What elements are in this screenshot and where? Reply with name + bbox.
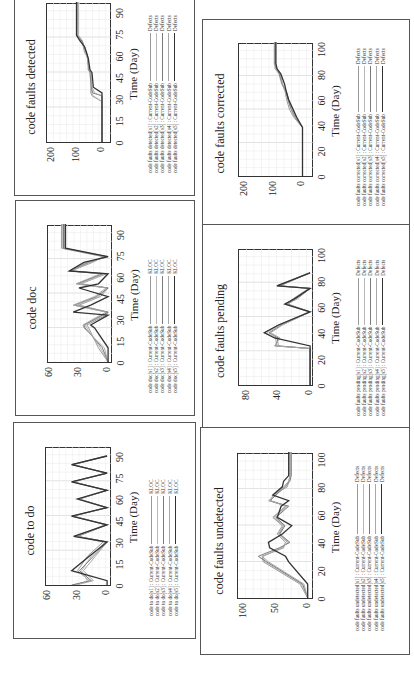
legend-line-swatch — [163, 496, 164, 544]
legend-line-swatch — [174, 33, 175, 81]
legend-series-name: code faults detected[s5] : Current-CodeS… — [172, 83, 178, 173]
y-tick-label: 60 — [43, 367, 54, 391]
x-tick-label: 60 — [114, 490, 125, 510]
y-tick-label: 30 — [71, 590, 82, 614]
legend-unit: Defects — [380, 260, 386, 276]
legend: code doc[s1] : Current-CodeSubKLOCcode d… — [147, 260, 178, 393]
x-tick-label: 100 — [316, 246, 327, 266]
y-tick-label: 0 — [101, 367, 112, 391]
chart-panel: code faults corrected2001000020406080100… — [202, 19, 410, 228]
x-tick-label: 90 — [115, 225, 126, 245]
legend-item: code doc[s5] : Current-CodeSubKLOC — [172, 260, 178, 393]
y-tick-label: 0 — [303, 390, 314, 414]
panel-code-faults-pending: code faults pending80400020406080100Time… — [202, 230, 410, 444]
x-tick-label: 60 — [115, 268, 126, 288]
x-tick-label: 40 — [316, 324, 327, 344]
x-axis-label: Time (Day) — [329, 428, 341, 654]
panel-code-doc: code doc603000153045607590Time (Day)code… — [15, 236, 195, 452]
x-tick-label: 75 — [114, 469, 125, 489]
x-tick-label: 15 — [114, 555, 125, 575]
legend-line-swatch — [381, 484, 382, 534]
legend-unit: Defects — [380, 48, 386, 64]
legend-line-swatch — [156, 276, 157, 324]
legend-line-swatch — [376, 278, 377, 325]
x-tick-label: 0 — [114, 576, 125, 596]
legend-series-name: code faults undetected[s5] : Current-Cod… — [379, 536, 385, 631]
x-axis-label: Time (Day) — [127, 423, 139, 638]
x-tick-label: 45 — [115, 289, 126, 309]
legend-item: code faults pending[s5] : Current-CodeSu… — [380, 260, 386, 416]
line-chart-svg — [47, 2, 112, 142]
x-tick-label: 0 — [316, 376, 327, 396]
line-chart-svg — [46, 446, 112, 585]
y-tick-label: 0 — [301, 603, 312, 627]
y-tick-label: 80 — [240, 390, 251, 414]
line-chart-svg — [239, 248, 314, 385]
y-tick-label: 30 — [72, 367, 83, 391]
chart-title: code faults undetected — [212, 428, 227, 654]
legend-line-swatch — [162, 33, 163, 81]
legend: code faults detected[s1] : Current-CodeS… — [147, 15, 178, 173]
x-tick-label: 90 — [114, 3, 125, 23]
x-tick-label: 75 — [115, 246, 126, 266]
legend-line-swatch — [150, 276, 151, 324]
plot-area — [238, 249, 313, 386]
legend: code faults pending[s1] : Current-CodeSu… — [355, 260, 386, 416]
plot-area — [46, 3, 111, 143]
y-tick-label: 100 — [267, 181, 278, 205]
panel-code-to-do: code to do603000153045607590Time (Day)co… — [13, 456, 196, 673]
legend-line-swatch — [157, 496, 158, 544]
legend-item: code faults corrected[s5] : Current-Code… — [380, 48, 386, 206]
y-tick-label: 200 — [238, 181, 249, 205]
x-tick-label: 60 — [316, 298, 327, 318]
chart-title: code to do — [23, 423, 38, 638]
legend-item: code faults detected[s5] : Current-CodeS… — [172, 15, 178, 173]
legend-line-swatch — [376, 66, 377, 112]
x-tick-label: 60 — [114, 46, 125, 66]
chart-panel: code doc603000153045607590Time (Day)code… — [15, 200, 195, 416]
chart-panel: code to do603000153045607590Time (Day)co… — [13, 422, 196, 639]
x-tick-label: 15 — [114, 111, 125, 131]
legend-unit: Defects — [379, 466, 385, 482]
legend-line-swatch — [358, 278, 359, 325]
line-chart-svg — [48, 224, 113, 362]
x-tick-label: 20 — [316, 350, 327, 370]
legend-line-swatch — [370, 66, 371, 112]
chart-title: code doc — [25, 201, 40, 415]
legend-line-swatch — [168, 33, 169, 81]
legend: code faults corrected[s1] : Current-Code… — [355, 48, 386, 206]
y-tick-label: 60 — [41, 590, 52, 614]
y-tick-label: 50 — [269, 603, 280, 627]
y-tick-label: 40 — [271, 390, 282, 414]
legend: code to do[s1] : Current-CodeSubKLOCcode… — [148, 480, 179, 616]
legend-line-swatch — [364, 278, 365, 325]
panel-code-faults-corrected: code faults corrected2001000020406080100… — [202, 20, 410, 229]
x-tick-label: 20 — [316, 561, 327, 581]
legend-item: code to do[s5] : Current-CodeSubKLOC — [173, 480, 179, 616]
x-tick-label: 60 — [316, 506, 327, 526]
legend-line-swatch — [358, 66, 359, 112]
chart-panel: code faults detected20010000153045607590… — [14, 0, 195, 196]
x-axis-label: Time (Day) — [329, 20, 341, 227]
x-tick-label: 60 — [316, 90, 327, 110]
x-tick-label: 0 — [316, 167, 327, 187]
x-tick-label: 40 — [316, 533, 327, 553]
series-line — [72, 456, 108, 585]
x-tick-label: 0 — [316, 589, 327, 609]
legend-line-swatch — [174, 276, 175, 324]
y-tick-label: 0 — [295, 181, 306, 205]
legend-series-name: code doc[s5] : Current-CodeSub — [172, 326, 178, 393]
legend-line-swatch — [357, 484, 358, 534]
plot-area — [47, 225, 112, 363]
x-axis-label: Time (Day) — [127, 0, 139, 195]
legend-line-swatch — [369, 484, 370, 534]
legend-line-swatch — [162, 276, 163, 324]
y-tick-label: 200 — [45, 147, 56, 171]
x-tick-label: 30 — [114, 90, 125, 110]
legend-series-name: code to do[s5] : Current-CodeSub — [173, 546, 179, 616]
y-tick-label: 100 — [237, 603, 248, 627]
x-tick-label: 20 — [316, 141, 327, 161]
legend-line-swatch — [375, 484, 376, 534]
legend-line-swatch — [168, 276, 169, 324]
x-tick-label: 80 — [316, 272, 327, 292]
